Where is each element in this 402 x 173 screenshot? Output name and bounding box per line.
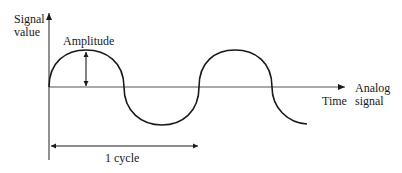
x-axis-label: Time: [322, 95, 347, 108]
y-axis-label-line2: value: [14, 26, 45, 39]
signal-label-line2: signal: [355, 95, 390, 108]
y-axis-label: Signal value: [14, 13, 45, 39]
amplitude-label: Amplitude: [63, 35, 114, 48]
signal-label: Analog signal: [355, 82, 390, 108]
cycle-label: 1 cycle: [105, 152, 139, 165]
signal-diagram: [0, 0, 402, 173]
